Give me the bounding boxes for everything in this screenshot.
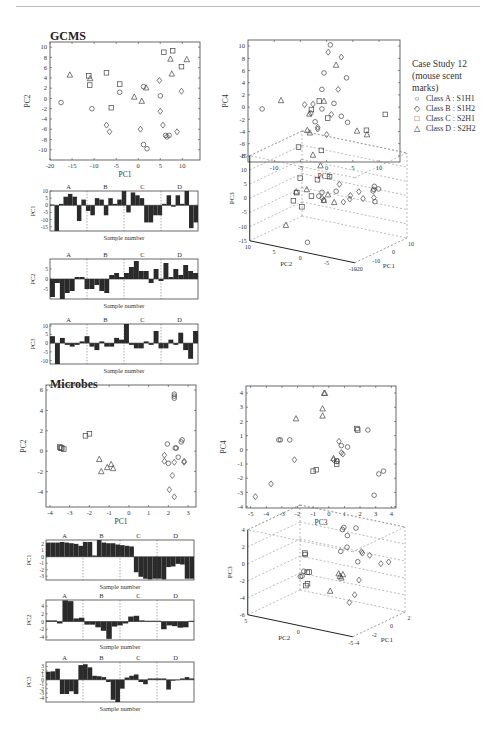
- plot-frame: [46, 385, 196, 507]
- y-tick-label: 2: [44, 84, 47, 91]
- x-tick-label: -1: [106, 509, 111, 516]
- data-point-square: [162, 50, 167, 55]
- bar: [73, 618, 78, 621]
- group-label: C: [140, 183, 144, 190]
- bar: [99, 279, 104, 291]
- bar: [119, 277, 124, 279]
- series-circle: [260, 43, 350, 125]
- series3d-diamond: [320, 181, 376, 205]
- data-point-square: [296, 145, 301, 150]
- z-tick-label: -10: [239, 224, 247, 230]
- bar: [50, 336, 55, 343]
- bar: [95, 622, 100, 628]
- grid-line: [302, 216, 407, 238]
- bar: [180, 204, 184, 205]
- bar: [183, 265, 188, 279]
- bar: [89, 343, 94, 346]
- data-point-triangle: [168, 56, 174, 61]
- data-point-circle: [339, 443, 344, 448]
- bar: [131, 192, 135, 205]
- y-tick-label: 6: [44, 64, 48, 71]
- y-tick-label: -3: [238, 489, 243, 496]
- y-tick-label: 0: [240, 446, 243, 453]
- plot-frame: [246, 386, 396, 508]
- bar: [90, 622, 95, 625]
- bar: [149, 343, 154, 345]
- y-axis-label: PC2: [19, 439, 28, 452]
- data-point-triangle: [331, 199, 337, 204]
- series-diamond: [253, 438, 345, 499]
- bar: [157, 678, 162, 679]
- y-tick-label: -2: [38, 468, 43, 475]
- data-point-circle: [322, 71, 327, 76]
- bar: [193, 273, 198, 279]
- grid-line: [248, 556, 300, 581]
- x-tick-label: -15: [68, 162, 77, 169]
- bar: [139, 271, 144, 279]
- y-axis: [250, 241, 355, 263]
- bar: [166, 557, 171, 567]
- bar: [148, 678, 153, 679]
- data-point-diamond: [337, 181, 342, 187]
- x-tick-label: -2: [295, 510, 300, 517]
- y-tick-label: -4: [39, 634, 44, 640]
- y-tick-label: -10: [41, 358, 49, 364]
- data-point-diamond: [315, 124, 320, 130]
- grid-line: [353, 527, 405, 552]
- bar: [183, 622, 188, 628]
- bar: [176, 557, 181, 564]
- data-point-diamond: [179, 88, 184, 94]
- data-point-triangle: [325, 192, 331, 197]
- y-tick-label: 0: [41, 554, 44, 560]
- series-diamond: [104, 77, 184, 134]
- y-tick-label: -4: [238, 503, 244, 510]
- y-tick-label: 3: [41, 663, 44, 669]
- bar: [101, 622, 106, 631]
- gcms-bar-pc3-chart: ABCD-10-50510Sample numberPC3: [29, 316, 198, 374]
- series3d-square: [303, 551, 312, 588]
- bar: [143, 680, 148, 684]
- y-tick-label: 0: [45, 340, 48, 346]
- bar: [162, 204, 166, 205]
- x-tick-label: -5: [248, 510, 253, 517]
- y-tick-label: 4: [41, 603, 44, 609]
- bar: [161, 622, 166, 630]
- x-tick-label: -2: [372, 632, 377, 638]
- data-point-circle: [339, 114, 344, 119]
- data-point-circle: [345, 533, 350, 538]
- data-point-diamond: [172, 494, 177, 500]
- bar: [51, 671, 56, 679]
- y-tick-label: 5: [273, 249, 276, 255]
- bar: [89, 279, 94, 289]
- data-point-triangle: [139, 98, 145, 103]
- grid-line: [248, 573, 300, 598]
- y-axis-label: PC3: [29, 338, 36, 349]
- grid-line: [302, 145, 407, 167]
- bar: [173, 269, 178, 279]
- data-point-triangle: [310, 152, 316, 157]
- bar: [167, 622, 172, 626]
- bar: [124, 273, 129, 279]
- bar: [156, 621, 161, 622]
- group-label: B: [99, 654, 104, 661]
- bar: [63, 197, 67, 206]
- y-axis-label: PC3: [25, 676, 32, 687]
- y-tick-label: -4: [42, 115, 48, 122]
- data-point-triangle: [97, 456, 103, 461]
- y-axis-label: PC2: [25, 614, 32, 625]
- group-label: A: [62, 532, 67, 539]
- bar: [185, 191, 189, 205]
- bar: [79, 618, 84, 622]
- bar: [57, 622, 62, 624]
- y-tick-label: -2: [42, 105, 47, 112]
- data-point-square: [334, 462, 339, 467]
- y-tick-label: 8: [242, 55, 245, 62]
- y-tick-label: 10: [43, 188, 49, 194]
- bar: [144, 341, 149, 343]
- y-tick-label: -2: [39, 626, 44, 632]
- y-tick-label: 6: [242, 67, 246, 74]
- x-tick-label: -4: [354, 640, 359, 646]
- bar: [185, 557, 190, 579]
- y-tick-label: 1: [240, 432, 243, 439]
- data-point-diamond: [138, 126, 143, 132]
